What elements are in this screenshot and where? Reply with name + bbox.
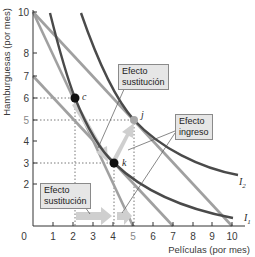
y-tick-5: 5: [23, 115, 29, 126]
y-tick-4: 4: [23, 136, 29, 147]
callout-income-line2: ingreso: [179, 127, 209, 138]
x-tick-8: 8: [190, 231, 196, 242]
y-tick-2: 2: [23, 179, 29, 190]
point-j-label: j: [139, 109, 144, 120]
y-tick-6: 6: [23, 93, 29, 104]
y-tick-8: 8: [23, 48, 29, 59]
y-tick-7: 7: [23, 71, 29, 82]
y-tick-labels: 10 8 7 6 5 4 3 2: [18, 7, 30, 190]
point-k-label: k: [122, 157, 127, 168]
point-c-label: c: [82, 91, 87, 102]
x-tick-labels: 0 1 2 3 4 5 6 7 8 9 10: [21, 231, 238, 242]
x-tick-6: 6: [150, 231, 156, 242]
arrow-x-2-to-4: [76, 207, 112, 225]
callout-upper-substitution: Efecto sustitución: [118, 64, 169, 90]
callout-income-line1: Efecto: [179, 116, 209, 127]
x-tick-5: 5: [130, 231, 136, 242]
i1-label: I1: [243, 212, 251, 226]
x-tick-7: 7: [170, 231, 176, 242]
x-tick-0: 0: [21, 231, 27, 242]
callout-upper-substitution-line1: Efecto: [122, 66, 165, 77]
y-axis-title: Hamburguesas (por mes): [1, 8, 12, 116]
x-axis-title: Películas (por mes): [168, 244, 250, 255]
i2-label: I2: [238, 176, 246, 190]
point-c-marker: [71, 94, 80, 103]
point-k-marker: [110, 159, 119, 168]
callout-lower-substitution: Efecto sustitución: [40, 183, 91, 209]
callout-lower-substitution-line1: Efecto: [44, 185, 87, 196]
x-tick-2: 2: [70, 231, 76, 242]
point-j-marker: [130, 116, 138, 124]
callout-lower-substitution-line2: sustitución: [44, 196, 87, 207]
arrow-k-to-j: [113, 123, 134, 160]
y-tick-3: 3: [23, 158, 29, 169]
x-tick-3: 3: [90, 231, 96, 242]
callout-upper-substitution-line2: sustitución: [122, 77, 165, 88]
x-tick-9: 9: [209, 231, 215, 242]
curve-labels: I2 I1: [238, 176, 251, 226]
x-tick-1: 1: [50, 231, 56, 242]
y-tick-10: 10: [18, 7, 30, 18]
x-tick-4: 4: [110, 231, 116, 242]
chart: 0 1 2 3 4 5 6 7 8 9 10 10 8 7 6 5 4 3 2 …: [0, 0, 255, 257]
x-tick-10: 10: [226, 231, 238, 242]
callout-income: Efecto ingreso: [175, 114, 213, 140]
